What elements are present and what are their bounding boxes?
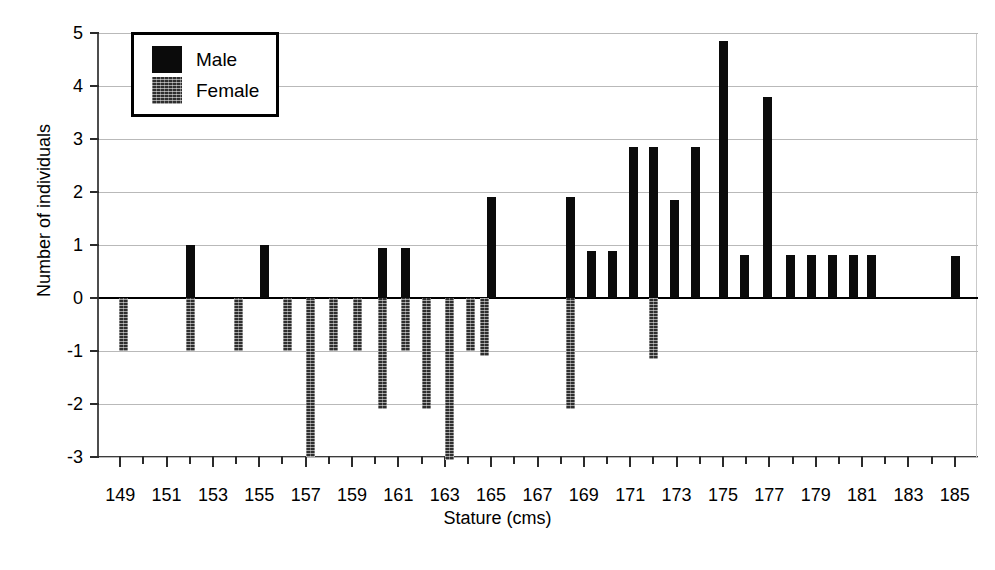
- bar-female: [445, 298, 454, 460]
- bar-female: [186, 298, 195, 351]
- x-tick-mark: [258, 456, 260, 467]
- y-tick-label: 4: [43, 77, 83, 95]
- x-tick-label: 175: [700, 485, 746, 506]
- y-tick-mark: [90, 191, 99, 193]
- bar-male: [719, 41, 728, 298]
- x-tick-mark-minor: [328, 456, 330, 464]
- y-tick-label: 5: [43, 24, 83, 42]
- y-tick-mark: [90, 350, 99, 352]
- x-tick-mark: [676, 456, 678, 467]
- x-tick-label: 169: [561, 485, 607, 506]
- x-tick-mark: [583, 456, 585, 467]
- bar-female: [378, 298, 387, 409]
- legend-item-male: Male: [152, 44, 237, 74]
- x-tick-mark-minor: [235, 456, 237, 464]
- bar-female: [401, 298, 410, 351]
- x-tick-mark-minor: [189, 456, 191, 464]
- x-tick-mark: [305, 456, 307, 467]
- x-tick-mark: [119, 456, 121, 467]
- x-tick-mark-minor: [513, 456, 515, 464]
- x-axis-title: Stature (cms): [0, 508, 995, 529]
- legend-label-male: Male: [196, 50, 237, 69]
- x-tick-label: 165: [468, 485, 514, 506]
- y-tick-label: -1: [43, 342, 83, 360]
- bar-male: [670, 200, 679, 298]
- gridline: [97, 245, 978, 246]
- x-tick-mark: [722, 456, 724, 467]
- chart-figure: Number of individuals Stature (cms) 5432…: [0, 0, 995, 570]
- x-tick-label: 151: [144, 485, 190, 506]
- x-tick-mark-minor: [699, 456, 701, 464]
- x-tick-label: 159: [329, 485, 375, 506]
- x-tick-mark-minor: [374, 456, 376, 464]
- x-tick-mark-minor: [467, 456, 469, 464]
- bar-female: [306, 298, 315, 457]
- x-tick-mark: [166, 456, 168, 467]
- bar-male: [867, 255, 876, 298]
- x-tick-mark-minor: [606, 456, 608, 464]
- x-tick-mark-minor: [142, 456, 144, 464]
- zero-baseline: [97, 297, 978, 299]
- x-tick-mark: [351, 456, 353, 467]
- y-tick-label: 1: [43, 236, 83, 254]
- y-tick-label: -3: [43, 448, 83, 466]
- x-tick-label: 179: [793, 485, 839, 506]
- x-tick-label: 185: [932, 485, 978, 506]
- x-tick-mark-minor: [421, 456, 423, 464]
- bar-female: [466, 298, 475, 351]
- x-tick-label: 155: [236, 485, 282, 506]
- x-tick-mark-minor: [884, 456, 886, 464]
- legend-swatch-female: [152, 77, 182, 104]
- x-tick-mark: [490, 456, 492, 467]
- x-tick-mark: [537, 456, 539, 467]
- x-tick-label: 149: [97, 485, 143, 506]
- x-tick-mark-minor: [652, 456, 654, 464]
- bar-female: [480, 298, 489, 356]
- gridline: [97, 351, 978, 352]
- bar-male: [691, 147, 700, 298]
- bar-female: [422, 298, 431, 409]
- y-tick-label: 2: [43, 183, 83, 201]
- gridline: [97, 404, 978, 405]
- gridline: [97, 192, 978, 193]
- bar-female: [353, 298, 362, 351]
- bar-male: [608, 251, 617, 298]
- x-tick-mark: [861, 456, 863, 467]
- bar-male: [587, 251, 596, 298]
- bar-male: [951, 256, 960, 298]
- x-tick-label: 171: [607, 485, 653, 506]
- bar-male: [378, 248, 387, 298]
- x-tick-mark: [212, 456, 214, 467]
- y-tick-label: 0: [43, 289, 83, 307]
- x-tick-mark-minor: [560, 456, 562, 464]
- y-tick-label: 3: [43, 130, 83, 148]
- x-tick-mark: [907, 456, 909, 467]
- bar-male: [566, 197, 575, 298]
- y-tick-mark: [90, 138, 99, 140]
- y-tick-mark: [90, 297, 99, 299]
- bar-female: [234, 298, 243, 351]
- x-tick-label: 153: [190, 485, 236, 506]
- y-tick-label: -2: [43, 395, 83, 413]
- bar-female: [329, 298, 338, 351]
- x-tick-label: 177: [746, 485, 792, 506]
- bar-male: [807, 255, 816, 298]
- y-tick-mark: [90, 244, 99, 246]
- x-tick-label: 173: [654, 485, 700, 506]
- bar-male: [401, 248, 410, 298]
- y-tick-mark: [90, 32, 99, 34]
- y-tick-mark: [90, 456, 99, 458]
- bar-male: [828, 255, 837, 298]
- x-tick-label: 181: [839, 485, 885, 506]
- x-tick-label: 161: [375, 485, 421, 506]
- bar-female: [649, 298, 658, 359]
- x-tick-label: 163: [422, 485, 468, 506]
- x-tick-label: 157: [283, 485, 329, 506]
- x-tick-mark-minor: [792, 456, 794, 464]
- bar-female: [283, 298, 292, 351]
- x-tick-mark-minor: [931, 456, 933, 464]
- bar-male: [763, 97, 772, 298]
- legend-label-female: Female: [196, 81, 259, 100]
- x-tick-mark: [629, 456, 631, 467]
- gridline: [97, 139, 978, 140]
